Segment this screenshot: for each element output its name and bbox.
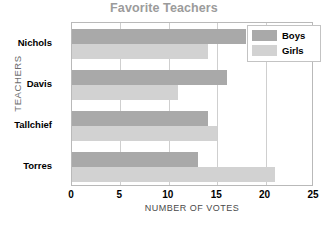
x-tick-label-0: 0 bbox=[51, 189, 91, 200]
bar-torres-boys bbox=[72, 152, 198, 167]
category-label-tallchief: Tallchief bbox=[0, 119, 52, 130]
bar-davis-boys bbox=[72, 70, 227, 85]
legend-item-girls[interactable]: Girls bbox=[252, 44, 316, 57]
bar-tallchief-girls bbox=[72, 126, 217, 141]
bar-davis-girls bbox=[72, 85, 178, 100]
category-label-nichols: Nichols bbox=[0, 37, 52, 48]
bar-tallchief-boys bbox=[72, 111, 208, 126]
legend-item-boys[interactable]: Boys bbox=[252, 29, 316, 42]
x-tick-label-25: 25 bbox=[293, 189, 328, 200]
x-tick-label-5: 5 bbox=[99, 189, 139, 200]
bar-nichols-girls bbox=[72, 44, 208, 59]
bar-nichols-boys bbox=[72, 29, 246, 44]
legend-label-boys: Boys bbox=[282, 30, 305, 41]
category-label-torres: Torres bbox=[0, 160, 52, 171]
gridline bbox=[217, 23, 218, 185]
x-tick-label-10: 10 bbox=[148, 189, 188, 200]
x-axis-title: NUMBER OF VOTES bbox=[71, 203, 313, 213]
bar-chart: Favorite Teachers TEACHERS NicholsDavisT… bbox=[0, 0, 328, 226]
legend-swatch-boys bbox=[252, 30, 277, 41]
category-label-davis: Davis bbox=[0, 78, 52, 89]
chart-title: Favorite Teachers bbox=[0, 1, 328, 15]
x-tick-label-15: 15 bbox=[196, 189, 236, 200]
legend-swatch-girls bbox=[252, 45, 277, 56]
chart-legend: BoysGirls bbox=[247, 25, 321, 62]
bar-torres-girls bbox=[72, 167, 275, 182]
x-tick-label-20: 20 bbox=[245, 189, 285, 200]
legend-label-girls: Girls bbox=[282, 45, 304, 56]
